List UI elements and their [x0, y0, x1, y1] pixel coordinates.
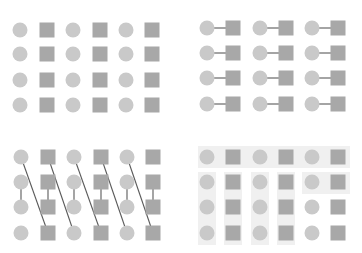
square-shape — [146, 226, 161, 241]
square-shape — [93, 23, 108, 38]
circle-shape — [200, 21, 215, 36]
square-shape — [279, 200, 294, 215]
circle-shape — [305, 200, 320, 215]
square-shape — [40, 73, 55, 88]
square-shape — [331, 46, 346, 61]
square-shape — [279, 150, 294, 165]
circle-shape — [253, 46, 268, 61]
circle-shape — [66, 23, 81, 38]
circle-shape — [14, 150, 29, 165]
circle-shape — [14, 200, 29, 215]
square-shape — [331, 21, 346, 36]
circle-shape — [253, 150, 268, 165]
square-shape — [331, 150, 346, 165]
circle-shape — [120, 150, 135, 165]
circle-shape — [305, 226, 320, 241]
connector-line — [48, 157, 74, 233]
circle-shape — [13, 23, 28, 38]
square-shape — [41, 200, 56, 215]
square-shape — [94, 200, 109, 215]
square-shape — [94, 150, 109, 165]
circle-shape — [253, 226, 268, 241]
connector-line — [101, 157, 127, 233]
square-shape — [331, 226, 346, 241]
square-shape — [226, 200, 241, 215]
circle-shape — [66, 73, 81, 88]
circle-shape — [253, 200, 268, 215]
square-shape — [279, 97, 294, 112]
square-shape — [145, 98, 160, 113]
square-shape — [145, 47, 160, 62]
circle-shape — [67, 150, 82, 165]
circle-shape — [67, 175, 82, 190]
circle-shape — [305, 21, 320, 36]
gestalt-grouping-diagram — [0, 0, 362, 253]
square-shape — [41, 150, 56, 165]
circle-shape — [119, 98, 134, 113]
square-shape — [226, 175, 241, 190]
square-shape — [226, 150, 241, 165]
circle-shape — [120, 200, 135, 215]
square-shape — [40, 23, 55, 38]
square-shape — [331, 175, 346, 190]
circle-shape — [253, 21, 268, 36]
square-shape — [41, 175, 56, 190]
panel-region-grouped — [198, 146, 350, 245]
square-shape — [279, 21, 294, 36]
square-shape — [93, 73, 108, 88]
group-band — [198, 146, 350, 168]
circle-shape — [305, 150, 320, 165]
circle-shape — [305, 97, 320, 112]
square-shape — [146, 150, 161, 165]
square-shape — [93, 98, 108, 113]
square-shape — [146, 200, 161, 215]
square-shape — [331, 200, 346, 215]
circle-shape — [200, 175, 215, 190]
square-shape — [145, 23, 160, 38]
connector-line — [127, 157, 153, 233]
circle-shape — [305, 175, 320, 190]
circle-shape — [305, 71, 320, 86]
circle-shape — [253, 71, 268, 86]
circle-shape — [253, 97, 268, 112]
square-shape — [279, 46, 294, 61]
panel-diagonal-connected — [14, 150, 161, 241]
square-shape — [40, 98, 55, 113]
circle-shape — [14, 175, 29, 190]
connector-line — [74, 157, 101, 233]
square-shape — [93, 47, 108, 62]
circle-shape — [13, 47, 28, 62]
circle-shape — [200, 200, 215, 215]
circle-shape — [119, 47, 134, 62]
circle-shape — [305, 46, 320, 61]
circle-shape — [200, 150, 215, 165]
square-shape — [94, 175, 109, 190]
circle-shape — [200, 46, 215, 61]
panel-pair-connected — [200, 21, 346, 112]
square-shape — [226, 226, 241, 241]
circle-shape — [66, 47, 81, 62]
square-shape — [226, 71, 241, 86]
circle-shape — [120, 175, 135, 190]
circle-shape — [67, 200, 82, 215]
square-shape — [94, 226, 109, 241]
square-shape — [226, 21, 241, 36]
circle-shape — [67, 226, 82, 241]
circle-shape — [253, 175, 268, 190]
square-shape — [145, 73, 160, 88]
square-shape — [279, 226, 294, 241]
circle-shape — [14, 226, 29, 241]
panel-ungrouped — [13, 23, 160, 113]
circle-shape — [200, 97, 215, 112]
circle-shape — [119, 23, 134, 38]
circle-shape — [120, 226, 135, 241]
square-shape — [226, 46, 241, 61]
square-shape — [279, 175, 294, 190]
circle-shape — [200, 71, 215, 86]
circle-shape — [119, 73, 134, 88]
square-shape — [41, 226, 56, 241]
square-shape — [331, 71, 346, 86]
square-shape — [40, 47, 55, 62]
square-shape — [279, 71, 294, 86]
circle-shape — [200, 226, 215, 241]
